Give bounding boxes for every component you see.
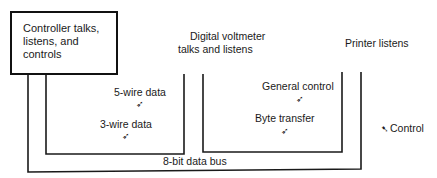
five-wire-arrow-icon: ➶	[136, 100, 144, 109]
control-arrow-icon: ➷	[381, 125, 389, 134]
voltmeter-label-line1: Digital voltmeter	[190, 30, 265, 43]
voltmeter-label-line2: talks and listens	[178, 43, 253, 56]
three-wire-data-label: 3-wire data	[100, 118, 152, 131]
byte-transfer-arrow-icon: ➶	[281, 127, 289, 136]
five-wire-data-label: 5-wire data	[114, 86, 166, 99]
controller-box: Controller talks, listens, and controls	[10, 11, 118, 75]
byte-transfer-label: Byte transfer	[255, 112, 315, 125]
general-control-label: General control	[262, 80, 334, 93]
control-label: Control	[390, 122, 424, 135]
general-control-arrow-icon: ➶	[296, 95, 304, 104]
printer-label: Printer listens	[345, 37, 409, 50]
three-wire-arrow-icon: ➶	[122, 132, 130, 141]
data-bus-label: 8-bit data bus	[163, 155, 227, 168]
controller-label: Controller talks, listens, and controls	[23, 22, 99, 61]
